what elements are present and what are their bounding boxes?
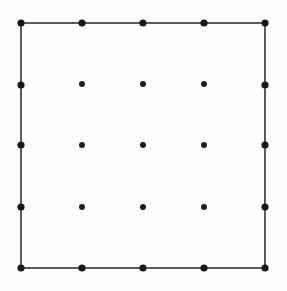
interior-dot-r3-c2 [140, 204, 146, 210]
boundary-dot-r2-c0 [17, 141, 24, 148]
boundary-dot-r3-c4 [261, 203, 268, 210]
boundary-dot-r0-c2 [139, 19, 146, 26]
boundary-dot-r4-c1 [78, 264, 85, 271]
boundary-dot-r1-c4 [261, 81, 268, 88]
interior-dot-r1-c1 [79, 81, 85, 87]
interior-dot-r2-c3 [201, 142, 207, 148]
boundary-dot-r4-c2 [139, 264, 146, 271]
boundary-dot-r4-c3 [200, 264, 207, 271]
interior-dot-r3-c3 [201, 204, 207, 210]
dot-grid-figure [0, 0, 287, 291]
corner-dot-bottom-left [17, 264, 24, 271]
interior-dot-r3-c1 [79, 204, 85, 210]
corner-dot-top-right [261, 19, 268, 26]
boundary-dot-r1-c0 [17, 81, 24, 88]
corner-dot-top-left [17, 19, 24, 26]
boundary-dot-r0-c3 [200, 19, 207, 26]
boundary-dot-r2-c4 [261, 141, 268, 148]
lattice-points [17, 19, 268, 271]
interior-dot-r2-c1 [79, 142, 85, 148]
boundary-dot-r3-c0 [17, 203, 24, 210]
dot-grid-canvas [0, 0, 287, 291]
corner-dot-bottom-right [261, 264, 268, 271]
interior-dot-r1-c3 [201, 81, 207, 87]
boundary-dot-r0-c1 [78, 19, 85, 26]
interior-dot-r2-c2 [140, 142, 146, 148]
interior-dot-r1-c2 [140, 81, 146, 87]
